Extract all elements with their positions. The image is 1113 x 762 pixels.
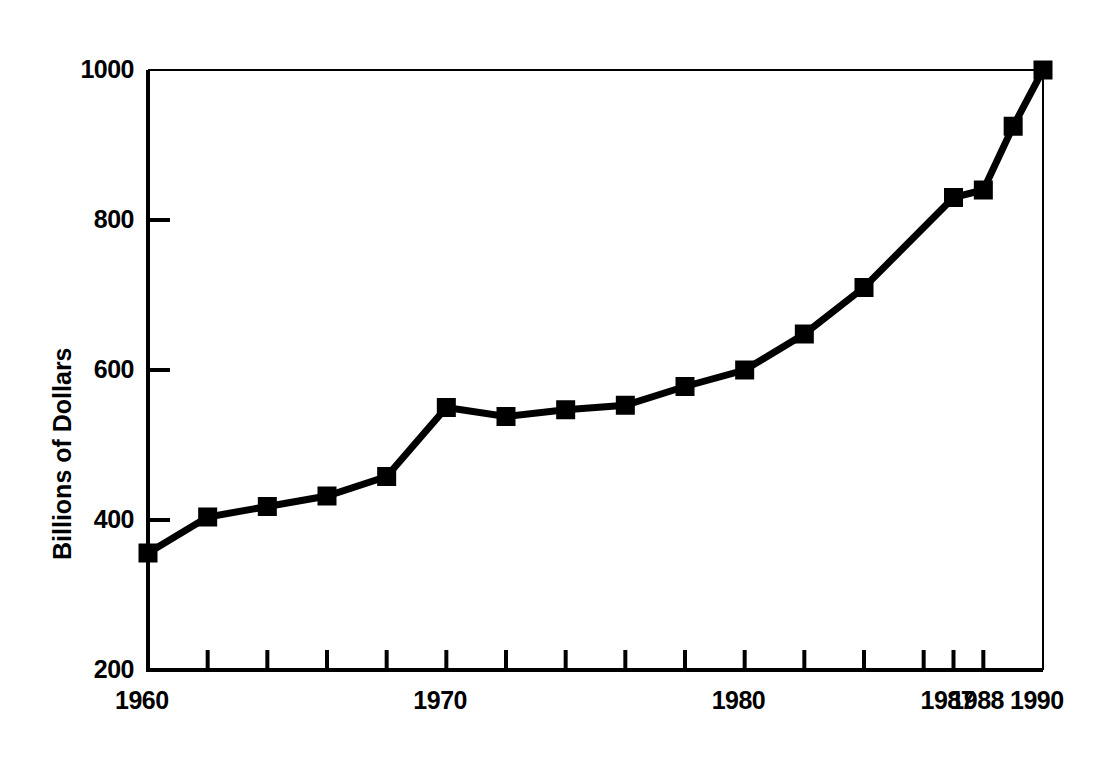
data-point-marker [139, 544, 158, 563]
data-point-marker [735, 361, 754, 380]
chart-axes [148, 70, 1043, 670]
data-point-marker [318, 487, 337, 506]
data-point-marker [1034, 61, 1053, 80]
data-point-marker [1004, 117, 1023, 136]
y-tick-label: 600 [94, 355, 134, 384]
data-point-marker [974, 181, 993, 200]
data-point-marker [377, 467, 396, 486]
y-tick-label: 800 [94, 205, 134, 234]
chart-figure: Billions of Dollars 1000800600400200 196… [0, 0, 1113, 762]
data-point-marker [795, 325, 814, 344]
data-point-marker [258, 497, 277, 516]
data-point-marker [616, 396, 635, 415]
data-series-line [148, 70, 1043, 553]
y-tick-label: 200 [94, 655, 134, 684]
y-tick-label: 1000 [80, 55, 134, 84]
y-tick-label: 400 [94, 505, 134, 534]
data-point-marker [944, 188, 963, 207]
data-point-marker [556, 400, 575, 419]
x-tick-label: 1990 [0, 686, 1113, 715]
data-point-marker [198, 508, 217, 527]
data-point-marker [497, 407, 516, 426]
data-point-marker [437, 398, 456, 417]
data-point-marker [855, 278, 874, 297]
line-chart-plot [0, 0, 1113, 762]
data-point-markers [139, 61, 1053, 563]
y-axis-title: Billions of Dollars [48, 347, 77, 560]
data-point-marker [676, 377, 695, 396]
